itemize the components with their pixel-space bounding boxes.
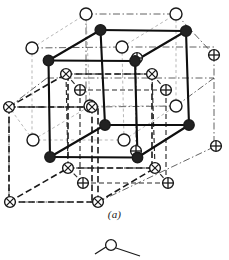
figure-caption: (a) [0, 208, 229, 220]
filled-atom [45, 152, 55, 162]
open-atom [116, 41, 128, 53]
open-atom [118, 134, 130, 146]
unit-cell-diagram [0, 0, 229, 215]
filled-atom [43, 55, 53, 65]
plus-cross-atom [163, 178, 174, 189]
open-atom [170, 8, 182, 20]
figure-caption-text: (a) [108, 208, 121, 220]
plus-cross-atom [78, 178, 89, 189]
x-cross-atom [63, 163, 74, 174]
x-cross-atom [93, 197, 104, 208]
x-cross-atom [4, 102, 15, 113]
next-figure-partial [0, 232, 229, 260]
open-atom [27, 134, 39, 146]
open-atom [170, 100, 182, 112]
open-atom [26, 42, 38, 54]
plus-cross-atom [211, 141, 222, 152]
x-cross-atom [61, 69, 72, 80]
x-cross-atom [87, 102, 98, 113]
plus-cross-atom [75, 85, 86, 96]
filled-atom [100, 120, 110, 130]
plus-cross-atom [209, 50, 220, 61]
x-cross-atom [147, 69, 158, 80]
figure-container: (a) [0, 0, 229, 260]
outer-lattice-dashdot [9, 14, 216, 202]
x-cross-atom [5, 197, 16, 208]
plus-cross-atom [161, 85, 172, 96]
mid-lattice-dashed [9, 74, 168, 183]
filled-atom [95, 25, 106, 36]
filled-atom [181, 26, 192, 37]
filled-atom [130, 56, 140, 66]
filled-atom [132, 152, 142, 162]
x-cross-atom [150, 163, 161, 174]
open-atom [80, 8, 92, 20]
filled-atom [184, 120, 194, 130]
